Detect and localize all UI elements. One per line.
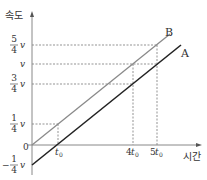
y-tick-5-4v: 5 4 v <box>10 34 25 55</box>
svg-text:0: 0 <box>59 151 63 158</box>
velocity-time-graph: B A 속도 시간 5 4 v v 3 4 v 1 4 v 0 − 1 4 v … <box>0 0 207 180</box>
y-axis-label: 속도 <box>5 10 23 21</box>
line-a-label: A <box>180 47 190 60</box>
svg-text:4: 4 <box>11 84 17 94</box>
y-axis-arrow-icon <box>30 11 34 17</box>
svg-text:3: 3 <box>11 73 17 83</box>
svg-text:0: 0 <box>135 151 139 158</box>
svg-text:1: 1 <box>11 113 17 123</box>
y-tick-3-4v: 3 4 v <box>10 73 25 94</box>
y-tick-neg-1-4v: − 1 4 v <box>2 154 25 175</box>
line-b <box>32 34 170 145</box>
svg-text:0: 0 <box>159 151 163 158</box>
x-axis-arrow-icon <box>196 143 202 147</box>
y-tick-v: v <box>20 59 25 69</box>
x-tick-t0: t 0 <box>55 147 63 158</box>
line-b-label: B <box>165 26 173 39</box>
svg-text:v: v <box>20 40 25 50</box>
x-tick-5t0: 5 t 0 <box>150 147 163 158</box>
svg-text:5: 5 <box>11 34 17 44</box>
y-tick-zero: 0 <box>23 142 29 152</box>
x-axis-label: 시간 <box>183 151 201 162</box>
svg-text:4: 4 <box>11 165 17 175</box>
svg-text:4: 4 <box>11 45 17 55</box>
svg-text:v: v <box>20 119 25 129</box>
svg-text:4: 4 <box>11 124 17 134</box>
x-tick-4t0: 4 t 0 <box>126 147 139 158</box>
y-tick-1-4v: 1 4 v <box>10 113 25 134</box>
svg-text:v: v <box>20 160 25 170</box>
svg-text:−: − <box>2 160 10 170</box>
svg-text:1: 1 <box>11 154 17 164</box>
svg-text:v: v <box>20 79 25 89</box>
